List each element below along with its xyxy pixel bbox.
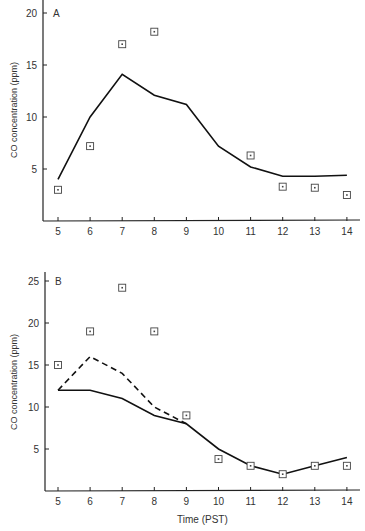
observed-square-marker-icon xyxy=(311,184,318,191)
observed-square-marker-icon xyxy=(55,362,62,369)
observed-square-marker-icon xyxy=(119,41,126,48)
x-tick-label: 13 xyxy=(309,226,321,237)
x-tick-label: 14 xyxy=(341,496,353,507)
observed-square-marker-icon xyxy=(183,412,190,419)
solid-series-line xyxy=(58,74,347,179)
observed-square-marker-icon xyxy=(247,462,254,469)
observed-square-marker-icon xyxy=(87,328,94,335)
y-tick-label: 10 xyxy=(28,402,40,413)
x-tick-label: 5 xyxy=(55,226,61,237)
x-axis xyxy=(45,490,360,491)
observed-square-marker-icon xyxy=(151,28,158,35)
x-axis-label: Time (PST) xyxy=(177,514,228,525)
observed-square-marker-icon xyxy=(151,328,158,335)
observed-square-marker-icon xyxy=(279,183,286,190)
x-tick-label: 11 xyxy=(245,226,256,237)
observed-square-marker-icon xyxy=(215,456,222,463)
y-tick-label: 5 xyxy=(31,164,37,175)
y-tick-label: 5 xyxy=(33,444,39,455)
x-tick-label: 9 xyxy=(184,226,190,237)
observed-square-marker-icon xyxy=(343,192,350,199)
x-tick-label: 7 xyxy=(119,496,125,507)
y-axis-label: CO concentration (ppm) xyxy=(9,62,19,158)
x-tick-label: 14 xyxy=(341,226,353,237)
x-tick-label: 5 xyxy=(55,496,61,507)
panel-label: B xyxy=(55,276,62,287)
observed-square-marker-icon xyxy=(247,152,254,159)
y-tick-label: 20 xyxy=(26,8,38,19)
x-tick-label: 6 xyxy=(87,496,93,507)
observed-square-marker-icon xyxy=(343,462,350,469)
y-tick-label: 25 xyxy=(28,276,40,287)
co-concentration-figure: 5678910111213145101520ACO concentration … xyxy=(0,0,365,531)
panel-label: A xyxy=(53,8,60,19)
x-tick-label: 12 xyxy=(277,226,289,237)
y-tick-label: 20 xyxy=(28,318,40,329)
solid-series-line xyxy=(58,390,347,474)
observed-square-marker-icon xyxy=(55,186,62,193)
y-axis-label: CO concentration (ppm) xyxy=(9,334,19,430)
observed-square-marker-icon xyxy=(87,143,94,150)
x-tick-label: 8 xyxy=(152,496,158,507)
x-tick-label: 10 xyxy=(213,496,225,507)
x-tick-label: 12 xyxy=(277,496,289,507)
observed-square-marker-icon xyxy=(279,471,286,478)
y-tick-label: 15 xyxy=(28,360,40,371)
x-tick-label: 7 xyxy=(119,226,125,237)
y-tick-label: 15 xyxy=(26,60,38,71)
x-tick-label: 8 xyxy=(152,226,158,237)
x-tick-label: 13 xyxy=(309,496,321,507)
x-tick-label: 6 xyxy=(87,226,93,237)
observed-square-marker-icon xyxy=(311,462,318,469)
y-tick-label: 10 xyxy=(26,112,38,123)
observed-square-marker-icon xyxy=(119,284,126,291)
panel-a-chart: 5678910111213145101520ACO concentration … xyxy=(9,0,360,237)
panel-b-chart: 567891011121314510152025BCO concentratio… xyxy=(9,272,360,525)
x-tick-label: 9 xyxy=(184,496,190,507)
x-tick-label: 11 xyxy=(245,496,256,507)
x-tick-label: 10 xyxy=(213,226,225,237)
